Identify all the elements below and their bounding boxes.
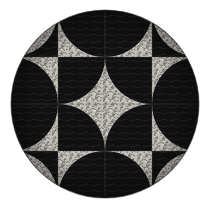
quilt-medallion-image — [0, 0, 211, 210]
rim-vignette — [11, 10, 199, 198]
artwork-canvas — [0, 0, 211, 210]
